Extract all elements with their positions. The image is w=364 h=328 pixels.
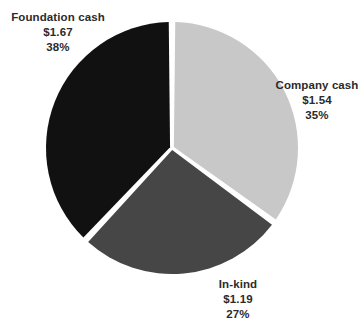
pie-label-in-kind-percent: 27% <box>195 307 281 322</box>
pie-label-foundation-cash-value: $1.67 <box>6 25 110 40</box>
pie-label-company-cash: Company cash $1.54 35% <box>272 78 362 123</box>
pie-label-in-kind-name: In-kind <box>195 277 281 292</box>
pie-label-company-cash-percent: 35% <box>272 108 362 123</box>
pie-chart-figure: Foundation cash $1.67 38% Company cash $… <box>0 0 364 328</box>
pie-label-company-cash-value: $1.54 <box>272 93 362 108</box>
pie-label-in-kind: In-kind $1.19 27% <box>195 277 281 322</box>
pie-label-in-kind-value: $1.19 <box>195 292 281 307</box>
pie-slice-group <box>46 22 298 274</box>
pie-label-foundation-cash-name: Foundation cash <box>6 10 110 25</box>
pie-label-foundation-cash: Foundation cash $1.67 38% <box>6 10 110 55</box>
pie-label-company-cash-name: Company cash <box>272 78 362 93</box>
pie-label-foundation-cash-percent: 38% <box>6 40 110 55</box>
